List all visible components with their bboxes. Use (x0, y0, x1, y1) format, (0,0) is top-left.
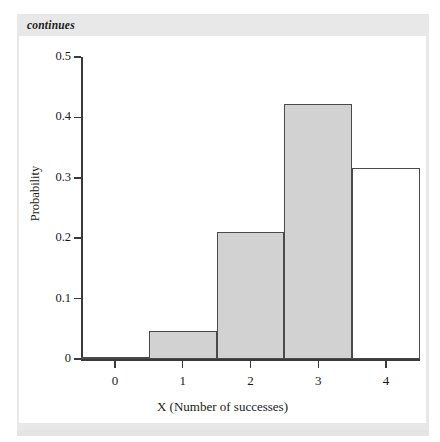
y-tick-mark (74, 237, 81, 239)
x-tick-label: 4 (366, 373, 406, 389)
y-tick-label: 0.1 (27, 292, 71, 305)
bar (81, 357, 149, 359)
x-tick-mark (182, 360, 184, 368)
y-tick-mark (74, 177, 81, 179)
probability-histogram: 00.10.20.30.40.5 01234 X (Number of succ… (19, 36, 426, 423)
page-bottom-strip (17, 430, 429, 436)
y-axis-title: Probability (28, 134, 43, 254)
continues-note: continues (27, 19, 75, 31)
x-tick-mark (114, 360, 116, 368)
x-tick-mark (385, 360, 387, 368)
y-tick-mark (74, 117, 81, 119)
bar (352, 168, 420, 359)
x-tick-mark (250, 360, 252, 368)
bar (149, 331, 217, 359)
x-tick-label: 2 (231, 373, 271, 389)
x-tick-label: 1 (163, 373, 203, 389)
y-tick-label: 0.4 (27, 110, 71, 123)
y-tick-mark (74, 358, 81, 360)
x-tick-label: 3 (298, 373, 338, 389)
y-tick-mark (74, 298, 81, 300)
figure-page: continues 00.10.20.30.40.5 01234 X (Numb… (0, 0, 440, 442)
y-tick-label: 0.5 (27, 50, 71, 63)
bar (284, 104, 352, 359)
y-tick-label: 0 (27, 352, 71, 365)
y-tick-mark (74, 56, 81, 58)
x-tick-mark (318, 360, 320, 368)
x-tick-label: 0 (95, 373, 135, 389)
figure-panel: 00.10.20.30.40.5 01234 X (Number of succ… (19, 36, 426, 423)
x-axis-title: X (Number of successes) (19, 399, 426, 415)
y-axis-line (81, 57, 83, 360)
bar (217, 232, 285, 359)
